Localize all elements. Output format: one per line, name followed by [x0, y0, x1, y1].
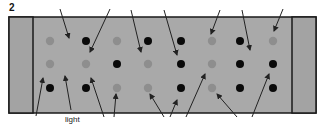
- dark-dot: [236, 37, 244, 45]
- dark-dot: [177, 60, 185, 68]
- dark-dot: [82, 84, 90, 92]
- light-dot: [113, 37, 121, 45]
- dark-dot: [269, 60, 277, 68]
- left-end-cap: [9, 17, 33, 113]
- light-dot: [46, 60, 54, 68]
- light-dot: [269, 37, 277, 45]
- light-dot: [208, 37, 216, 45]
- light-dot: [144, 84, 152, 92]
- label-light: light: [65, 115, 80, 124]
- dark-dot: [46, 84, 54, 92]
- light-dot: [46, 37, 54, 45]
- dark-dot: [177, 84, 185, 92]
- dark-dot: [113, 60, 121, 68]
- dark-dot: [82, 37, 90, 45]
- dark-dot: [144, 37, 152, 45]
- right-end-cap: [292, 17, 316, 113]
- light-dot: [113, 84, 121, 92]
- light-dot: [82, 60, 90, 68]
- dark-dot: [269, 84, 277, 92]
- light-dot: [144, 60, 152, 68]
- dark-dot: [236, 84, 244, 92]
- dot-grid-diagram: [0, 0, 320, 126]
- dark-dot: [236, 60, 244, 68]
- light-dot: [208, 60, 216, 68]
- light-dot: [208, 84, 216, 92]
- dark-dot: [177, 37, 185, 45]
